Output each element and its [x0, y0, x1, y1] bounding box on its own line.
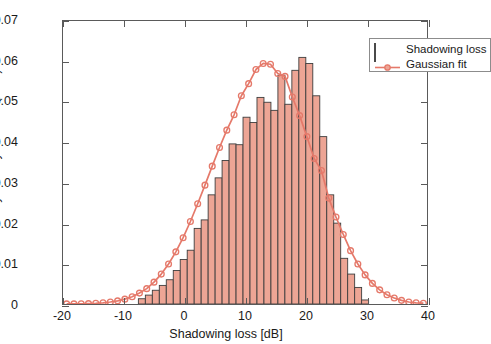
x-axis-tick-label: -10	[114, 309, 132, 323]
x-axis-tick	[429, 298, 430, 305]
plot-area: Shadowing loss Gaussian fit	[62, 20, 428, 305]
y-axis-tick-label: 0.02	[0, 217, 18, 231]
y-axis-tick	[62, 102, 69, 103]
y-axis-tick	[62, 62, 69, 63]
y-axis-tick	[421, 21, 428, 22]
x-axis-title: Shadowing loss [dB]	[169, 327, 282, 341]
legend-item-shadowing-loss[interactable]: Shadowing loss	[374, 42, 486, 56]
x-axis-tick	[63, 20, 64, 27]
x-axis-tick	[307, 20, 308, 27]
y-axis-tick	[62, 265, 69, 266]
x-axis-tick-label: 20	[299, 309, 313, 323]
x-axis-tick	[307, 298, 308, 305]
y-axis-tick-label: 0	[11, 298, 18, 312]
y-axis-tick	[421, 184, 428, 185]
y-axis-tick	[421, 143, 428, 144]
y-axis-tick	[62, 306, 69, 307]
x-axis-tick-label: -20	[53, 309, 71, 323]
y-axis-tick	[62, 225, 69, 226]
y-axis-tick	[62, 184, 69, 185]
x-axis-tick	[63, 298, 64, 305]
legend-line-marker-icon	[374, 59, 401, 70]
y-axis-tick	[421, 265, 428, 266]
y-axis-tick-label: 0.01	[0, 257, 18, 271]
x-axis-tick	[124, 298, 125, 305]
legend-label: Shadowing loss	[406, 43, 487, 55]
x-axis-tick	[124, 20, 125, 27]
y-axis-tick	[421, 225, 428, 226]
x-axis-tick-label: 40	[421, 309, 435, 323]
y-axis-tick	[421, 102, 428, 103]
y-axis-tick-label: 0.04	[0, 135, 18, 149]
x-axis-tick	[246, 298, 247, 305]
x-axis-tick	[246, 20, 247, 27]
legend-item-gaussian-fit[interactable]: Gaussian fit	[374, 57, 486, 71]
x-axis-tick	[185, 298, 186, 305]
legend-label: Gaussian fit	[406, 58, 467, 70]
x-axis-tick	[368, 20, 369, 27]
x-axis-tick	[429, 20, 430, 27]
y-axis-tick	[421, 306, 428, 307]
y-axis-tick-label: 0.05	[0, 94, 18, 108]
x-axis-tick	[368, 298, 369, 305]
x-axis-tick	[185, 20, 186, 27]
y-axis-tick-label: 0.03	[0, 176, 18, 190]
x-axis-tick-label: 10	[238, 309, 252, 323]
y-axis-tick-label: 0.06	[0, 54, 18, 68]
chart-legend[interactable]: Shadowing loss Gaussian fit	[369, 38, 491, 72]
legend-patch-icon	[374, 44, 401, 55]
y-axis-tick	[62, 143, 69, 144]
x-axis-tick-label: 0	[181, 309, 188, 323]
y-axis-tick-label: 0.07	[0, 13, 18, 27]
x-axis-tick-label: 30	[360, 309, 374, 323]
